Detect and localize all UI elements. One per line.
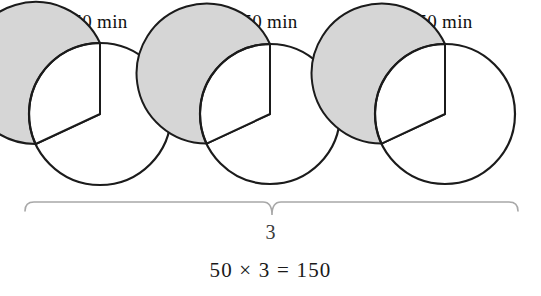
underbrace-path	[25, 202, 518, 215]
pie-diagram-figure: 50 min50 min50 min 3 50 × 3 = 150	[0, 0, 541, 296]
group-count-label: 3	[0, 221, 541, 244]
equation-label: 50 × 3 = 150	[0, 258, 541, 283]
pie-chart-3	[371, 40, 519, 188]
pie-svg	[371, 40, 519, 188]
